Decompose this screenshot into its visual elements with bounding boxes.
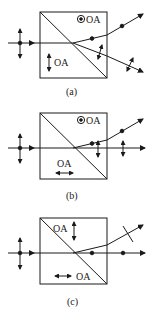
ray-dot-icon (90, 37, 94, 41)
panel-caption: (a) (66, 86, 77, 98)
input-dot-icon (18, 146, 22, 150)
oa-label: OA (53, 223, 68, 234)
ray-polarization-icon (127, 58, 133, 71)
oa-dot-icon (80, 18, 83, 21)
panel-b (8, 113, 145, 179)
oa-label: OA (76, 271, 91, 282)
ray-upper (73, 225, 143, 253)
ray-lower (73, 43, 143, 72)
ray-upper (73, 119, 143, 148)
panel-a-labels: OA OA (a) (54, 14, 101, 98)
oa-label: OA (86, 14, 101, 25)
input-dot-icon (18, 41, 22, 45)
oa-label: OA (86, 115, 101, 126)
panel-caption: (c) (67, 296, 78, 308)
ray-polarization-icon (123, 226, 133, 242)
panel-caption: (b) (66, 190, 78, 202)
oa-label: OA (54, 57, 69, 68)
ray-upper (73, 14, 143, 43)
ray-dot-icon (120, 24, 124, 28)
panel-a (8, 12, 143, 78)
ray-dot-icon (121, 251, 125, 255)
panel-b-labels: OA OA (b) (57, 115, 101, 202)
ray-dot-icon (90, 251, 94, 255)
ray-polarization-icon (98, 45, 102, 59)
oa-dot-icon (80, 119, 83, 122)
ray-dot-icon (120, 129, 124, 133)
input-dot-icon (18, 251, 22, 255)
oa-label: OA (57, 158, 72, 169)
panel-c-labels: OA OA (c) (53, 223, 91, 308)
polarizing-prisms-diagram: OA OA (a) OA OA (b) (0, 0, 156, 317)
ray-dot-icon (90, 142, 94, 146)
